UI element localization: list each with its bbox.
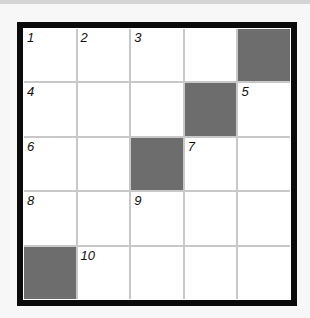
letter-cell[interactable] — [185, 192, 237, 244]
clue-number: 9 — [134, 194, 141, 207]
clue-number: 1 — [27, 31, 34, 44]
letter-cell[interactable] — [185, 29, 237, 81]
letter-cell[interactable]: 5 — [238, 83, 290, 135]
letter-cell[interactable]: 1 — [24, 29, 76, 81]
letter-cell[interactable] — [238, 192, 290, 244]
crossword-grid: 12345678910 — [24, 29, 290, 299]
page-top-band — [0, 0, 310, 4]
letter-cell[interactable] — [78, 83, 130, 135]
letter-cell[interactable]: 8 — [24, 192, 76, 244]
letter-cell[interactable]: 6 — [24, 138, 76, 190]
letter-cell[interactable] — [131, 247, 183, 299]
letter-cell[interactable] — [238, 138, 290, 190]
letter-cell[interactable]: 7 — [185, 138, 237, 190]
clue-number: 10 — [81, 249, 95, 262]
letter-cell[interactable]: 9 — [131, 192, 183, 244]
block-cell — [24, 247, 76, 299]
block-cell — [131, 138, 183, 190]
letter-cell[interactable]: 2 — [78, 29, 130, 81]
letter-cell[interactable] — [78, 138, 130, 190]
crossword-frame: 12345678910 — [17, 22, 297, 306]
clue-number: 5 — [241, 85, 248, 98]
block-cell — [238, 29, 290, 81]
letter-cell[interactable] — [78, 192, 130, 244]
clue-number: 6 — [27, 140, 34, 153]
letter-cell[interactable]: 3 — [131, 29, 183, 81]
letter-cell[interactable]: 10 — [78, 247, 130, 299]
letter-cell[interactable] — [131, 83, 183, 135]
clue-number: 4 — [27, 85, 34, 98]
clue-number: 7 — [188, 140, 195, 153]
letter-cell[interactable] — [238, 247, 290, 299]
letter-cell[interactable] — [185, 247, 237, 299]
clue-number: 3 — [134, 31, 141, 44]
letter-cell[interactable]: 4 — [24, 83, 76, 135]
clue-number: 8 — [27, 194, 34, 207]
block-cell — [185, 83, 237, 135]
clue-number: 2 — [81, 31, 88, 44]
